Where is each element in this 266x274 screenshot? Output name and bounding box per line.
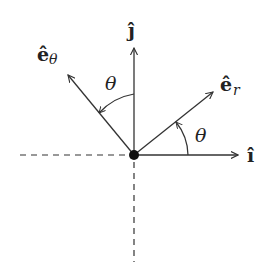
origin-point [129,150,139,160]
theta-arc-upper [99,94,134,113]
e-theta-subscript: θ [49,51,58,67]
e-theta-label: ê [37,43,49,65]
theta-label-lower: θ [195,124,207,146]
i-hat-label: î [247,144,255,166]
theta-label-upper: θ [105,72,117,94]
theta-arc-lower [176,122,188,155]
e-theta-vector [68,75,134,155]
polar-unit-vector-diagram: ĵ î ê r ê θ θ θ [0,0,266,274]
e-r-subscript: r [233,82,241,98]
e-r-label: ê [220,73,232,95]
j-hat-label: ĵ [126,19,135,41]
